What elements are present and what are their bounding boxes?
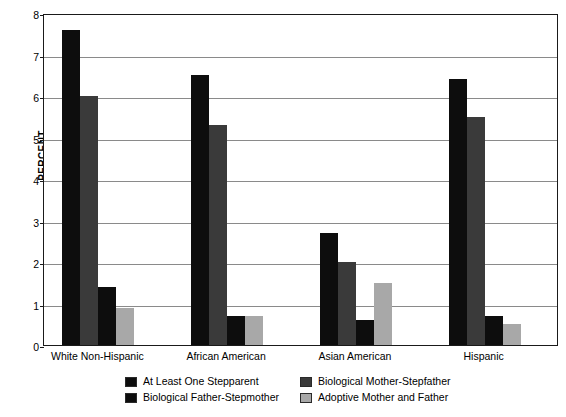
bar	[191, 75, 209, 345]
y-axis-tick-label: 8	[33, 10, 39, 21]
y-axis-tick-mark	[40, 140, 44, 141]
bar-group	[191, 15, 263, 345]
legend-swatch	[300, 377, 312, 387]
y-axis-tick-label: 4	[33, 176, 39, 187]
legend-entry: Adoptive Mother and Father	[300, 390, 545, 405]
legend-swatch	[300, 393, 312, 403]
bar	[227, 316, 245, 345]
bar-group	[320, 15, 392, 345]
y-axis-tick-label: 3	[33, 217, 39, 228]
y-axis-tick-label: 2	[33, 259, 39, 270]
plot-area: 012345678	[43, 14, 558, 346]
bar	[80, 96, 98, 345]
legend-entry: At Least One Stepparent	[125, 374, 300, 389]
chart-legend: At Least One StepparentBiological Mother…	[125, 374, 545, 405]
bar-group	[62, 15, 134, 345]
y-axis-tick-mark	[40, 306, 44, 307]
y-axis-tick-label: 7	[33, 51, 39, 62]
bar	[338, 262, 356, 345]
bar	[320, 233, 338, 345]
bar	[467, 117, 485, 345]
y-axis-tick-mark	[40, 57, 44, 58]
x-axis-category-label: White Non-Hispanic	[51, 350, 144, 362]
legend-label: At Least One Stepparent	[143, 376, 259, 387]
y-axis-tick-mark	[40, 181, 44, 182]
bar-chart-figure: PERCENT 012345678 White Non-HispanicAfri…	[0, 0, 566, 417]
bar-group	[449, 15, 521, 345]
bar	[449, 79, 467, 345]
y-axis-tick-mark	[40, 347, 44, 348]
bar	[62, 30, 80, 345]
y-axis-tick-label: 6	[33, 93, 39, 104]
legend-label: Biological Mother-Stepfather	[318, 376, 451, 387]
y-axis-tick-mark	[40, 98, 44, 99]
x-axis-category-label: African American	[186, 350, 265, 362]
x-axis-category-label: Hispanic	[463, 350, 503, 362]
bar	[503, 324, 521, 345]
y-axis-tick-label: 0	[33, 342, 39, 353]
legend-entry: Biological Mother-Stepfather	[300, 374, 545, 389]
legend-swatch	[125, 393, 137, 403]
bar	[245, 316, 263, 345]
y-axis-tick-mark	[40, 223, 44, 224]
legend-label: Adoptive Mother and Father	[318, 392, 448, 403]
legend-entry: Biological Father-Stepmother	[125, 390, 300, 405]
bar	[356, 320, 374, 345]
y-axis-tick-mark	[40, 15, 44, 16]
bar	[98, 287, 116, 345]
y-axis-tick-label: 5	[33, 134, 39, 145]
bar	[116, 308, 134, 345]
x-axis-category-label: Asian American	[318, 350, 391, 362]
bar	[374, 283, 392, 345]
bar	[209, 125, 227, 345]
legend-label: Biological Father-Stepmother	[143, 392, 279, 403]
y-axis-tick-label: 1	[33, 300, 39, 311]
y-axis-tick-mark	[40, 264, 44, 265]
bar	[485, 316, 503, 345]
legend-swatch	[125, 377, 137, 387]
